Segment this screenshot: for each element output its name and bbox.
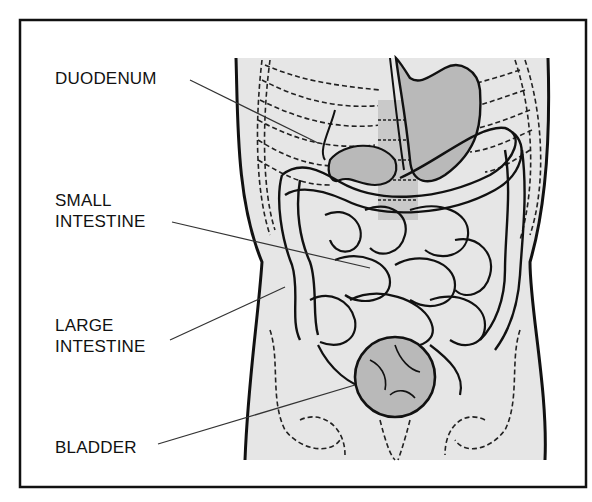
bladder: [355, 337, 435, 417]
label-bladder: BLADDER: [55, 437, 137, 458]
duodenum: [329, 146, 397, 185]
label-small-intestine: SMALL INTESTINE: [55, 190, 146, 232]
label-large-intestine: LARGE INTESTINE: [55, 315, 146, 357]
label-duodenum: DUODENUM: [55, 68, 157, 89]
